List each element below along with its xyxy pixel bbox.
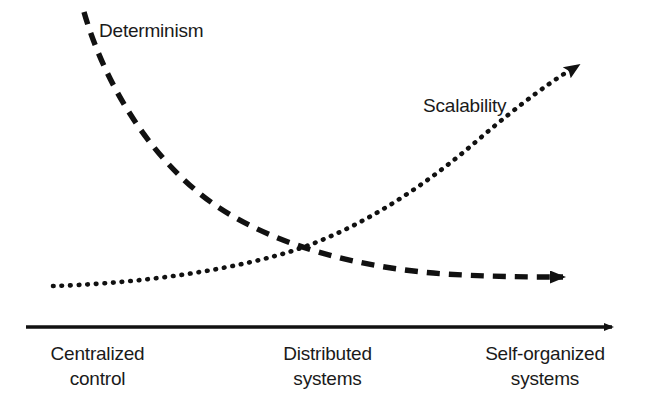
scalability-label: Scalability	[423, 95, 506, 117]
axis-label-distributed-systems: Distributed systems	[245, 341, 410, 391]
axis-label-centralized-control: Centralized control	[10, 341, 185, 391]
determinism-label: Determinism	[99, 20, 203, 42]
axis-label-self-organized-systems: Self-organized systems	[455, 341, 635, 391]
diagram-canvas: Determinism Scalability Centralized cont…	[0, 0, 650, 414]
